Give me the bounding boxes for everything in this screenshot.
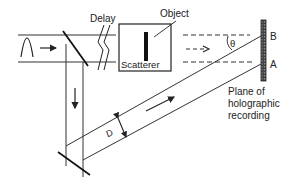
scatterer-bar — [144, 32, 148, 61]
plane-label-line3: recording — [228, 110, 270, 121]
arrow-diagonal-icon — [146, 97, 174, 111]
d-double-arrow-icon — [118, 118, 126, 137]
delay-symbol — [98, 25, 110, 70]
plane-label-line1: Plane of — [228, 86, 265, 97]
delay-label: Delay — [90, 13, 116, 24]
object-label: Object — [160, 8, 189, 19]
theta-label: θ — [230, 38, 235, 49]
plane-label-line2: holographic — [228, 98, 280, 109]
point-a-label: A — [270, 59, 277, 70]
object-beam-dashed — [183, 35, 253, 62]
beam-splitter — [63, 31, 88, 66]
reference-beam-vertical — [66, 44, 83, 177]
point-b-label: B — [270, 31, 277, 42]
scatterer-label: Scatterer — [121, 59, 160, 70]
pulse-icon — [21, 38, 33, 57]
diagram-canvas: D Delay Scatterer Object θ B A Plane of … — [0, 0, 295, 177]
mirror — [58, 152, 90, 175]
recording-plate — [261, 20, 266, 81]
holography-diagram: D Delay Scatterer Object θ B A Plane of … — [0, 0, 295, 177]
d-label: D — [105, 127, 115, 139]
